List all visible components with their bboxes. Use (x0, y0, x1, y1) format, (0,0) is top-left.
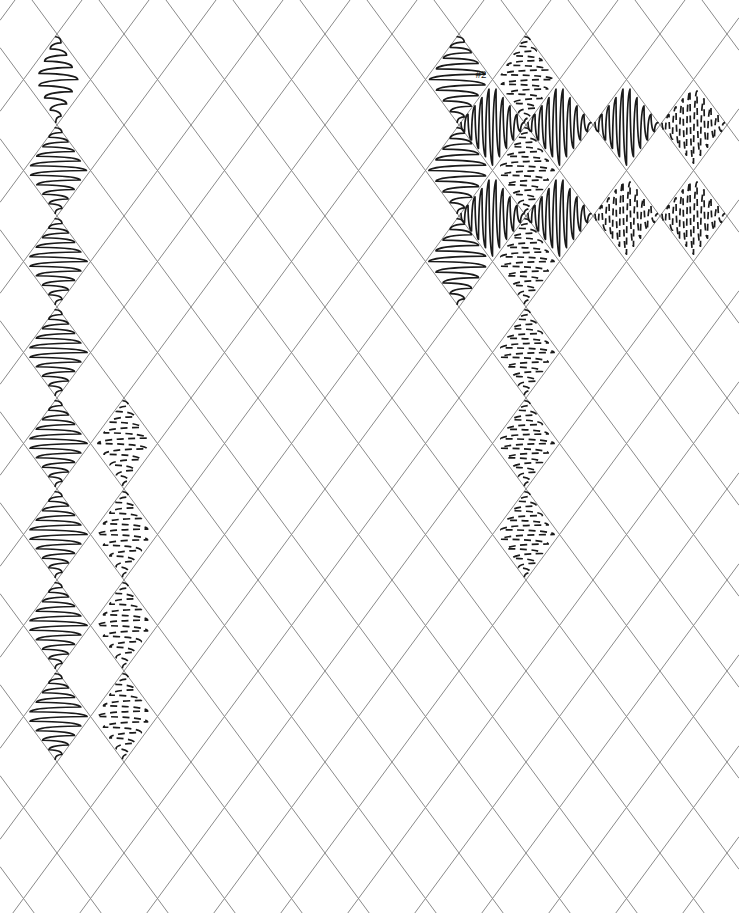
grid-line (233, 0, 739, 687)
scribble-cell-solid-horizontal (30, 583, 87, 669)
grid-line (0, 867, 34, 913)
scribble-cell-solid-vertical (528, 89, 591, 165)
scribble-cell-solid-horizontal (39, 37, 78, 123)
scribble-cell-solid-horizontal (30, 674, 87, 760)
grid-line (13, 0, 685, 913)
grid-line (99, 0, 739, 869)
scribble-cell-solid-horizontal (30, 310, 87, 396)
scribble-cell-dashed-vertical (595, 182, 658, 254)
scribble-cell-solid-vertical (595, 89, 658, 165)
grid-line (367, 0, 739, 505)
grid-line (0, 0, 149, 202)
grid-line (281, 291, 739, 913)
scribble-cell-dashed-horizontal (501, 310, 554, 396)
scribble-cell-dashed-horizontal (98, 401, 147, 487)
scribble-cell-solid-horizontal (31, 128, 87, 214)
grid-line (0, 0, 618, 839)
scribble-cell-solid-horizontal (30, 401, 87, 487)
grid-line (348, 382, 739, 913)
scribble-cell-dashed-horizontal (97, 674, 147, 760)
scribble-cell-solid-horizontal (30, 492, 87, 578)
grid-line (482, 564, 739, 913)
grid-line (0, 0, 551, 748)
grid-line (415, 473, 739, 913)
grid-line (0, 776, 101, 913)
grid-line (0, 685, 168, 913)
grid-line (0, 0, 82, 111)
scribble-cell-dashed-horizontal (501, 401, 554, 487)
annotation-layer: #2 (476, 68, 487, 80)
scribble-cell-dashed-vertical (662, 91, 725, 163)
annotation-label: #2 (476, 68, 487, 80)
scribble-cell-dashed-horizontal (97, 492, 147, 578)
grid-line (0, 594, 235, 913)
scribble-cell-dashed-vertical (662, 182, 725, 254)
pattern-canvas: #2 (0, 0, 739, 913)
scribble-cell-solid-horizontal (30, 219, 87, 305)
grid-line (683, 837, 739, 913)
grid-line (214, 200, 739, 913)
grid-line (616, 746, 739, 913)
grid-layer (0, 0, 739, 913)
grid-line (0, 0, 15, 20)
scribble-cell-dashed-horizontal (501, 492, 554, 578)
grid-line (0, 0, 216, 293)
grid-line (568, 0, 739, 232)
lattice-drawing: #2 (0, 0, 739, 913)
grid-line (80, 18, 739, 913)
scribble-cell-solid-vertical (528, 180, 591, 256)
scribble-cell-solid-vertical (461, 89, 524, 165)
grid-line (147, 109, 739, 913)
scribble-cell-dashed-horizontal (97, 583, 147, 669)
scribble-cell-solid-vertical (461, 180, 524, 256)
grid-line (0, 230, 503, 913)
